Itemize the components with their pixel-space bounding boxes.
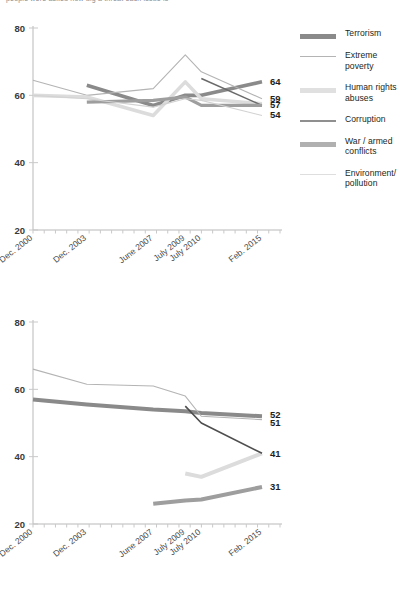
legend-label-line: Corruption [345,114,386,125]
line-chart-bottom: 2040608052514131Dec. 2000Dec. 2003June 2… [0,300,300,585]
legend-label-line: Terrorism [345,28,381,39]
svg-text:20: 20 [14,225,25,236]
legend-item-label: Human rightsabuses [345,82,397,103]
svg-text:Dec. 2000: Dec. 2000 [0,527,34,559]
svg-text:54: 54 [270,109,281,120]
chart-panel-bottom: 2040608052514131Dec. 2000Dec. 2003June 2… [0,300,412,589]
legend-item-label: Corruption [345,114,386,125]
svg-text:60: 60 [14,384,25,395]
legend-item: War / armedconflicts [300,136,397,157]
svg-text:40: 40 [14,157,25,168]
svg-text:June 2007: June 2007 [117,527,155,560]
legend-item: Extremepoverty [300,50,397,71]
legend-label-line: War / armed [345,136,393,147]
svg-text:20: 20 [14,519,25,530]
legend-item-label: Terrorism [345,28,381,39]
legend-label-line: Extreme [345,50,377,61]
legend-item: Corruption [300,114,397,125]
line-chart-top: 2040608064595754Dec. 2000Dec. 2003June 2… [0,6,300,291]
legend-item: Human rightsabuses [300,82,397,103]
legend-item: Terrorism [300,28,397,39]
clipped-header-label: people were asked how big a threat each … [6,0,412,2]
legend-label-line: conflicts [345,146,393,157]
svg-text:80: 80 [14,23,25,34]
svg-text:Dec. 2003: Dec. 2003 [51,527,88,559]
legend-label-line: pollution [345,178,396,189]
svg-text:Feb. 2015: Feb. 2015 [227,527,264,559]
legend-swatch-icon [300,88,336,93]
svg-text:Dec. 2003: Dec. 2003 [51,233,88,265]
svg-text:64: 64 [270,76,281,87]
svg-text:Dec. 2000: Dec. 2000 [0,233,34,265]
svg-text:Feb. 2015: Feb. 2015 [227,233,264,265]
svg-text:60: 60 [14,90,25,101]
legend-swatch-icon [300,142,336,147]
legend-swatch-icon [300,34,336,39]
svg-text:40: 40 [14,451,25,462]
legend-swatch-icon [300,120,336,122]
svg-text:31: 31 [270,481,281,492]
legend-swatch-icon [300,174,336,176]
svg-text:41: 41 [270,448,281,459]
svg-text:80: 80 [14,317,25,328]
legend-label-line: abuses [345,93,397,104]
legend-top: TerrorismExtremepovertyHuman rightsabuse… [300,28,397,200]
svg-text:June 2007: June 2007 [117,233,155,266]
chart-panel-top: 2040608064595754Dec. 2000Dec. 2003June 2… [0,6,412,296]
legend-item: Environment/pollution [300,168,397,189]
legend-item-label: War / armedconflicts [345,136,393,157]
svg-text:51: 51 [270,417,281,428]
legend-label-line: Environment/ [345,168,396,179]
legend-swatch-icon [300,56,336,57]
legend-label-line: poverty [345,61,377,72]
legend-item-label: Extremepoverty [345,50,377,71]
legend-item-label: Environment/pollution [345,168,396,189]
legend-label-line: Human rights [345,82,397,93]
